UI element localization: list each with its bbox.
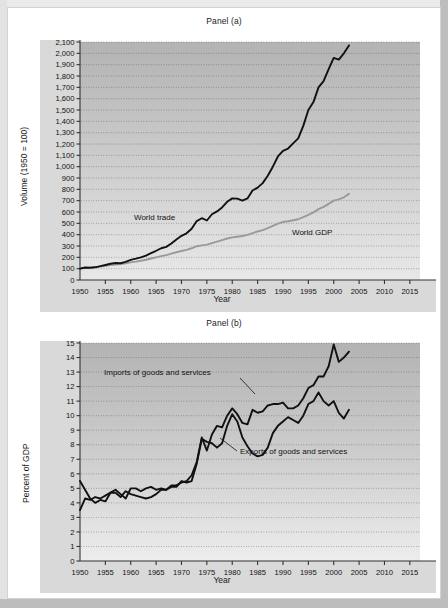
svg-text:1,700: 1,700 xyxy=(55,83,74,92)
panel-b-y-axis-title: Percent of GDP xyxy=(21,443,31,503)
panel-b-title: Panel (b) xyxy=(8,318,440,328)
svg-text:World trade: World trade xyxy=(134,213,176,222)
panel-b-x-axis-title: Year xyxy=(22,575,422,585)
svg-text:13: 13 xyxy=(66,368,74,377)
svg-text:10: 10 xyxy=(66,411,74,420)
svg-text:900: 900 xyxy=(62,174,75,183)
svg-text:400: 400 xyxy=(62,230,75,239)
frame-left xyxy=(0,0,7,608)
svg-text:4: 4 xyxy=(70,499,74,508)
panel-a: Panel (a) Volume (1950 = 100) Year 01002… xyxy=(8,8,440,313)
panel-a-y-axis-title: Volume (1950 = 100) xyxy=(19,127,29,206)
svg-text:1,900: 1,900 xyxy=(55,60,74,69)
svg-text:1,500: 1,500 xyxy=(55,106,74,115)
svg-text:0: 0 xyxy=(70,276,74,285)
svg-text:2,100: 2,100 xyxy=(55,38,74,47)
svg-text:3: 3 xyxy=(70,513,74,522)
figure-page: Panel (a) Volume (1950 = 100) Year 01002… xyxy=(0,0,448,608)
svg-text:Exports of goods and services: Exports of goods and services xyxy=(240,447,347,456)
svg-text:200: 200 xyxy=(62,253,75,262)
svg-text:7: 7 xyxy=(70,455,74,464)
svg-text:1,200: 1,200 xyxy=(55,140,74,149)
svg-text:1,300: 1,300 xyxy=(55,128,74,137)
panel-a-title: Panel (a) xyxy=(8,16,440,26)
svg-text:11: 11 xyxy=(67,397,75,406)
frame-top xyxy=(0,0,448,7)
frame-right xyxy=(440,0,448,608)
svg-text:9: 9 xyxy=(70,426,74,435)
svg-text:14: 14 xyxy=(66,353,74,362)
panel-a-x-axis-title: Year xyxy=(22,294,422,304)
svg-text:1,800: 1,800 xyxy=(55,72,74,81)
panel-b: Panel (b) Percent of GDP Year 0123456789… xyxy=(8,313,440,596)
svg-text:1,000: 1,000 xyxy=(55,162,74,171)
svg-text:100: 100 xyxy=(62,264,75,273)
svg-text:700: 700 xyxy=(62,196,75,205)
svg-text:800: 800 xyxy=(62,185,75,194)
svg-text:Imports of goods and services: Imports of goods and services xyxy=(104,368,211,377)
svg-text:0: 0 xyxy=(70,557,74,566)
panel-b-chart: 0123456789101112131415195019551960196519… xyxy=(8,313,440,596)
svg-text:12: 12 xyxy=(66,382,74,391)
svg-text:500: 500 xyxy=(62,219,75,228)
svg-text:1: 1 xyxy=(70,542,74,551)
svg-text:300: 300 xyxy=(62,242,75,251)
panel-a-chart: 01002003004005006007008009001,0001,1001,… xyxy=(8,8,440,313)
svg-text:8: 8 xyxy=(70,440,74,449)
svg-text:1,100: 1,100 xyxy=(55,151,74,160)
frame-bottom xyxy=(0,599,448,608)
svg-text:5: 5 xyxy=(70,484,74,493)
svg-text:1,400: 1,400 xyxy=(55,117,74,126)
svg-text:World GDP: World GDP xyxy=(292,228,332,237)
svg-text:2,000: 2,000 xyxy=(55,49,74,58)
svg-text:15: 15 xyxy=(66,339,74,348)
svg-text:6: 6 xyxy=(70,470,74,479)
svg-text:2: 2 xyxy=(70,528,74,537)
figure-sheet: Panel (a) Volume (1950 = 100) Year 01002… xyxy=(8,8,440,598)
svg-text:600: 600 xyxy=(62,208,75,217)
svg-text:1,600: 1,600 xyxy=(55,94,74,103)
